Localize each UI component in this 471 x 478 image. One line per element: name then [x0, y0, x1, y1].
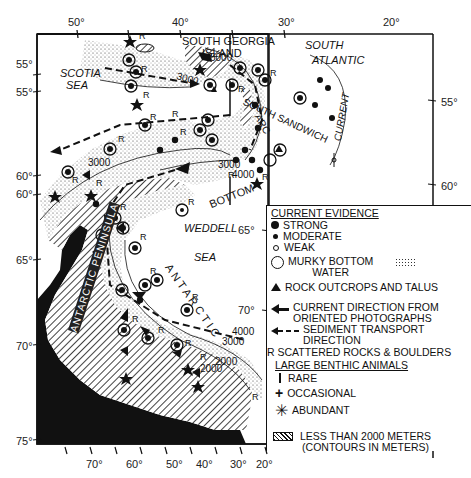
svg-text:R: R	[139, 31, 146, 41]
lat-label-65: 65°	[16, 254, 33, 266]
label-island: ISLAND	[202, 48, 242, 59]
lon-label-30: 30°	[278, 16, 295, 28]
lat-label-right-60: 60°	[441, 180, 458, 192]
lat-label-60a: 60°	[16, 170, 33, 182]
legend-benthic-title: LARGE BENTHIC ANIMALS	[275, 360, 408, 371]
lat-label-inner-70: 70°	[238, 304, 255, 316]
lon-bottom-20: 20°	[256, 458, 273, 470]
svg-text:R: R	[238, 84, 245, 94]
label-weddell: WEDDELL	[184, 223, 237, 234]
lat-label-inner-65: 65°	[238, 224, 255, 236]
legend-rock-outcrops: ROCK OUTCROPS AND TALUS	[271, 282, 438, 293]
legend-weak: WEAK	[271, 242, 315, 253]
legend-abundant: ✳ ABUNDANT	[275, 405, 350, 416]
vertical-bar-icon	[279, 373, 281, 383]
svg-text:R: R	[143, 90, 150, 100]
svg-text:R: R	[72, 175, 79, 185]
svg-text:R: R	[262, 172, 269, 182]
svg-text:R: R	[120, 202, 127, 212]
svg-text:R: R	[150, 266, 157, 276]
lon-label-20: 20°	[383, 16, 400, 28]
svg-text:R: R	[96, 178, 103, 188]
legend-current-evidence-title: CURRENT EVIDENCE	[271, 208, 379, 219]
legend-panel: CURRENT EVIDENCE STRONG MODERATE WEAK MU…	[266, 205, 471, 451]
lon-bottom-70: 70°	[86, 458, 103, 470]
svg-text:R: R	[118, 134, 125, 144]
lat-label-70: 70°	[16, 340, 33, 352]
svg-text:R: R	[150, 112, 157, 122]
open-circle-icon	[273, 245, 279, 251]
legend-depth: LESS THAN 2000 METERS (CONTOURS IN METER…	[273, 431, 431, 453]
solid-arrow-icon	[271, 306, 289, 314]
svg-text:R: R	[270, 68, 277, 78]
lat-label-75: 75°	[16, 435, 33, 447]
legend-murky-water: MURKY BOTTOM WATER	[271, 256, 417, 278]
label-scotia-sea: SEA	[66, 80, 88, 91]
svg-text:R: R	[180, 127, 187, 137]
legend-scattered-rocks: R SCATTERED ROCKS & BOULDERS	[267, 347, 451, 358]
lon-bottom-30: 30°	[230, 458, 247, 470]
svg-text:3000: 3000	[88, 157, 111, 168]
large-filled-circle-icon	[271, 221, 279, 229]
svg-text:4000: 4000	[232, 326, 255, 337]
filled-triangle-icon	[271, 283, 281, 291]
legend-rare: RARE	[279, 373, 317, 384]
lat-label-right-55: 55°	[441, 96, 458, 108]
hatch-swatch-icon	[273, 432, 293, 441]
svg-text:R: R	[185, 338, 192, 348]
label-south-georgia: SOUTH GEORGIA	[182, 36, 275, 47]
svg-text:R: R	[172, 109, 179, 119]
legend-occasional: + OCCASIONAL	[275, 388, 356, 399]
dashed-arrow-icon	[271, 328, 299, 336]
label-scotia: SCOTIA	[60, 68, 101, 79]
lat-label-55b: 55°	[16, 86, 33, 98]
svg-text:R: R	[200, 352, 207, 362]
lon-bottom-50: 50°	[166, 458, 183, 470]
svg-text:4000: 4000	[232, 169, 255, 180]
svg-text:R: R	[140, 232, 147, 242]
lon-bottom-60: 60°	[126, 458, 143, 470]
svg-text:R: R	[158, 325, 165, 335]
asterisk-star-icon: ✳	[275, 405, 288, 416]
svg-text:R: R	[141, 64, 148, 74]
dotted-pattern-swatch-icon	[395, 258, 417, 266]
svg-text:R: R	[132, 314, 139, 324]
svg-text:R: R	[188, 197, 195, 207]
lat-label-55a: 55°	[16, 58, 33, 70]
murky-circle-icon	[271, 256, 284, 269]
lon-label-40: 40°	[172, 16, 189, 28]
label-atlantic: ATLANTIC	[312, 55, 364, 66]
lon-bottom-40: 40°	[196, 458, 213, 470]
svg-text:3000: 3000	[222, 336, 245, 347]
legend-sediment-transport: SEDIMENT TRANSPORT DIRECTION	[271, 324, 424, 346]
small-filled-circle-icon	[273, 234, 278, 239]
lon-label-50: 50°	[68, 16, 85, 28]
legend-current-direction: CURRENT DIRECTION FROM ORIENTED PHOTOGRA…	[271, 302, 439, 324]
svg-text:2000: 2000	[200, 363, 223, 374]
lat-label-60b: 60°	[16, 188, 33, 200]
label-weddell-sea: SEA	[194, 252, 216, 263]
label-south: SOUTH	[305, 40, 344, 51]
plus-icon: +	[275, 388, 283, 399]
svg-text:R: R	[252, 392, 259, 402]
